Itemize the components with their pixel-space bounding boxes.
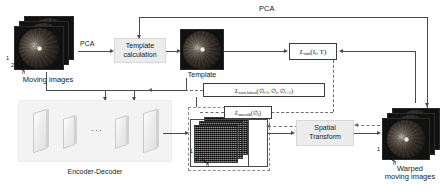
deformation-frame-inner-vertical — [248, 119, 249, 167]
smooth-loss-arg-close: ) — [259, 110, 261, 116]
connector-encoder-to-deformation — [163, 133, 186, 134]
moving-images-stack — [12, 16, 84, 76]
pca-top-label: PCA — [259, 5, 274, 13]
encoder-slab-2 — [63, 115, 75, 149]
template-calculation-line2: calculation — [123, 51, 156, 58]
connector-correlation-down — [196, 97, 197, 107]
template-calculation-line1: Template — [126, 42, 154, 49]
smooth-loss-text: Lsmooth(∅i) — [235, 109, 261, 116]
connector-moving-to-template-calc — [78, 51, 110, 52]
deformation-field-frame — [190, 119, 268, 167]
connector-deformation-to-spatial — [268, 133, 292, 134]
connector-pca-top-horizontal — [139, 17, 427, 18]
correlation-loss-box[interactable]: Lcorrelation(∅i-1, ∅i, ∅i+1) — [203, 83, 325, 97]
connector-template-down — [186, 78, 187, 90]
warped-moving-images-stack — [380, 108, 446, 162]
connector-template-to-lsim — [224, 51, 285, 52]
spatial-transform-line1: Spatial — [314, 124, 335, 131]
smooth-loss-arg-open: (∅ — [251, 110, 258, 116]
decoder-slab-1 — [115, 115, 127, 149]
arrowhead-warped-to-lsim — [339, 49, 343, 53]
connector-spatial-to-warped — [354, 133, 378, 134]
backprop-dashed-warped-to-spatial — [356, 125, 380, 126]
similarity-loss-subscript: sim — [304, 51, 311, 56]
warped-moving-images-label: Warped moving images — [372, 165, 448, 182]
correlation-loss-text: Lcorrelation(∅i-1, ∅i, ∅i+1) — [235, 87, 293, 94]
correlation-loss-arg1-sub: i-1 — [264, 90, 269, 95]
spatial-transform-line2: Transform — [309, 133, 341, 140]
connector-warped-to-lsim — [343, 51, 415, 52]
encoder-decoder-ellipsis: ··· — [91, 125, 103, 135]
similarity-loss-box[interactable]: Lsim(Ii, T) — [289, 43, 337, 60]
arrowhead-warped-up-to-pca — [425, 103, 429, 107]
encoder-decoder-panel: ··· — [18, 100, 172, 162]
backprop-dashed-into-deformation — [268, 126, 298, 127]
template-image-slice — [180, 29, 224, 70]
arrowhead-template-calc-to-template — [177, 49, 181, 53]
warped-image-slice-1 — [382, 118, 430, 160]
similarity-loss-args-tail: , T) — [316, 48, 326, 56]
decoder-slab-2 — [143, 109, 157, 154]
template-label: Template — [176, 71, 228, 79]
encoder-decoder-label: Encoder-Decoder — [40, 168, 150, 176]
smooth-loss-box[interactable]: Lsmooth(∅i) — [224, 106, 272, 119]
connector-warped-to-lsim-vertical — [415, 51, 416, 103]
connector-encoder-top-rail — [105, 90, 135, 91]
moving-image-slice-1 — [14, 26, 64, 70]
warped-label-line2: moving images — [385, 172, 435, 181]
connector-moving-right-to-encoder — [46, 90, 106, 91]
pca-left-label: PCA — [80, 40, 94, 48]
correlation-loss-arg-open: (∅ — [257, 88, 264, 94]
correlation-loss-subscript: correlation — [238, 90, 256, 95]
correlation-loss-arg-close: ) — [291, 88, 293, 94]
arrowhead-template-to-lsim — [284, 49, 288, 53]
moving-stack-index-2: 2 — [11, 62, 14, 68]
connector-moving-down — [46, 72, 47, 90]
correlation-loss-sep1: , ∅ — [268, 88, 276, 94]
smooth-loss-subscript: smooth — [238, 112, 250, 117]
similarity-loss-text: Lsim(Ii, T) — [300, 48, 326, 56]
warped-stack-index-2: 2 — [382, 153, 385, 159]
spatial-transform-box[interactable]: Spatial Transform — [296, 120, 354, 146]
smooth-loss-arg1-sub: i — [258, 112, 259, 117]
arrowhead-deformation-to-spatial — [291, 131, 295, 135]
template-calculation-box[interactable]: Template calculation — [114, 38, 166, 63]
arrowhead-pca-loop-down — [137, 35, 141, 39]
connector-template-to-encoder-rail — [134, 90, 186, 91]
encoder-slab-1 — [33, 109, 47, 154]
warped-stack-index-1: 1 — [377, 146, 380, 152]
backprop-dashed-smooth-left — [200, 112, 224, 113]
figure-canvas: 1 2 n Moving images PCA Template calcula… — [0, 0, 448, 195]
arrowhead-backprop-warped-to-spatial — [354, 123, 358, 127]
backprop-dashed-lsim-down — [333, 60, 334, 112]
moving-images-label: Moving images — [6, 76, 90, 84]
connector-pca-top-right-down — [427, 17, 428, 105]
connector-pca-top-left-down — [139, 17, 140, 29]
correlation-loss-arg3-sub: i+1 — [285, 90, 291, 95]
moving-stack-index-1: 1 — [6, 55, 9, 61]
template-image — [180, 29, 224, 70]
arrowhead-backprop-into-deformation — [266, 124, 270, 128]
